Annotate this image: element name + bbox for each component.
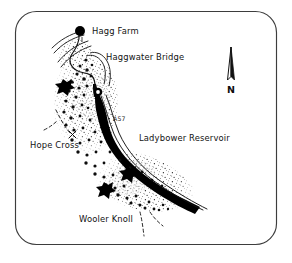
location-map-figure: N Hagg Farm Haggwater Bridge A57 Ladybow… xyxy=(0,0,292,263)
haggwater-bridge-node xyxy=(94,88,103,97)
map-canvas: N Hagg Farm Haggwater Bridge A57 Ladybow… xyxy=(0,0,292,263)
hagg-farm-marker xyxy=(75,26,85,36)
label-hope-cross: Hope Cross xyxy=(30,140,79,150)
label-haggwater-bridge: Haggwater Bridge xyxy=(106,52,184,62)
label-wooler-knoll: Wooler Knoll xyxy=(79,214,133,224)
compass-north-letter: N xyxy=(227,84,235,95)
label-ladybower-reservoir: Ladybower Reservoir xyxy=(139,133,230,143)
label-road-a57: A57 xyxy=(113,115,126,122)
label-hagg-farm: Hagg Farm xyxy=(92,26,139,36)
